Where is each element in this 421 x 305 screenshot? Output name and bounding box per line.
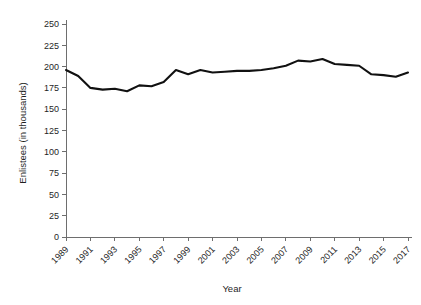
data-line-enlistees xyxy=(66,59,408,91)
y-tick-label: 150 xyxy=(44,104,59,114)
x-tick-label: 2015 xyxy=(367,244,388,265)
x-axis-group: 1989199119931995199719992001200320052007… xyxy=(49,237,412,266)
y-tick-label: 25 xyxy=(49,211,59,221)
x-tick-label: 2005 xyxy=(245,244,266,265)
x-tick-label: 2009 xyxy=(293,244,314,265)
x-tick-label: 2017 xyxy=(391,244,412,265)
x-tick-label: 2007 xyxy=(269,244,290,265)
x-tick-label: 2003 xyxy=(220,244,241,265)
y-tick-label: 250 xyxy=(44,19,59,29)
x-tick-label: 2011 xyxy=(318,244,339,265)
x-tick-label: 1991 xyxy=(74,244,95,265)
x-tick-label: 2001 xyxy=(196,244,217,265)
y-axis-title: Enlistees (in thousands) xyxy=(17,82,28,183)
x-tick-label: 1989 xyxy=(49,244,70,265)
chart-canvas: 0255075100125150175200225250 19891991199… xyxy=(0,0,421,305)
y-tick-label: 125 xyxy=(44,126,59,136)
y-tick-label: 75 xyxy=(49,168,59,178)
y-tick-label: 200 xyxy=(44,62,59,72)
y-tick-label: 100 xyxy=(44,147,59,157)
plot-group xyxy=(66,59,408,91)
x-tick-label: 1999 xyxy=(171,244,192,265)
y-tick-label: 50 xyxy=(49,190,59,200)
y-tick-label: 0 xyxy=(54,232,59,242)
x-tick-label: 1993 xyxy=(98,244,119,265)
enlistees-line-chart: 0255075100125150175200225250 19891991199… xyxy=(0,0,421,305)
y-tick-label: 225 xyxy=(44,41,59,51)
x-tick-label: 1995 xyxy=(122,244,143,265)
y-tick-label: 175 xyxy=(44,83,59,93)
x-axis-title: Year xyxy=(222,283,241,294)
x-tick-label: 2013 xyxy=(342,244,363,265)
x-tick-label: 1997 xyxy=(147,244,168,265)
y-axis-group: 0255075100125150175200225250 xyxy=(44,19,66,242)
